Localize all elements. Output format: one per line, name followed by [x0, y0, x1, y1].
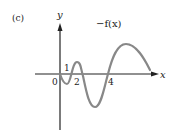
panel-label: (c): [12, 13, 24, 23]
y-axis-label: y: [56, 9, 63, 20]
x-tick-label-0: 0: [52, 77, 58, 87]
x-axis-label: x: [160, 69, 166, 80]
function-graph-figure: (c) y x 0 2 4 1 −f(x): [0, 0, 173, 137]
function-curve: [60, 44, 150, 107]
x-tick-label-4: 4: [108, 77, 114, 87]
y-tick-label-1: 1: [64, 63, 70, 73]
graph-svg: (c) y x 0 2 4 1 −f(x): [0, 0, 173, 137]
y-axis: y: [56, 9, 63, 130]
chart-title: −f(x): [96, 18, 122, 29]
x-axis-arrow-icon: [151, 72, 159, 77]
y-axis-arrow-icon: [58, 23, 63, 31]
x-tick-label-2: 2: [74, 77, 80, 87]
